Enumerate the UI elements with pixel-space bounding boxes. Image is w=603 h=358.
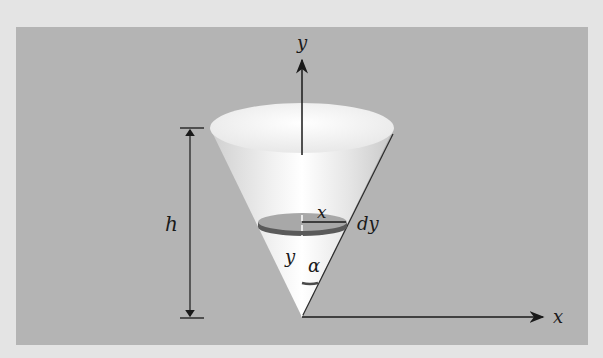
x-axis-label: x	[553, 306, 563, 327]
angle-arc	[302, 283, 318, 284]
y-axis-label: y	[296, 32, 308, 53]
half-angle-label: α	[308, 255, 320, 276]
disk-radius-label: x	[317, 202, 327, 222]
disk-height-label: y	[284, 246, 296, 267]
disk-thickness-label: dy	[357, 213, 380, 234]
cone-diagram: y x h x dy y α	[0, 0, 603, 358]
height-label: h	[165, 212, 178, 236]
height-dimension	[180, 128, 204, 318]
